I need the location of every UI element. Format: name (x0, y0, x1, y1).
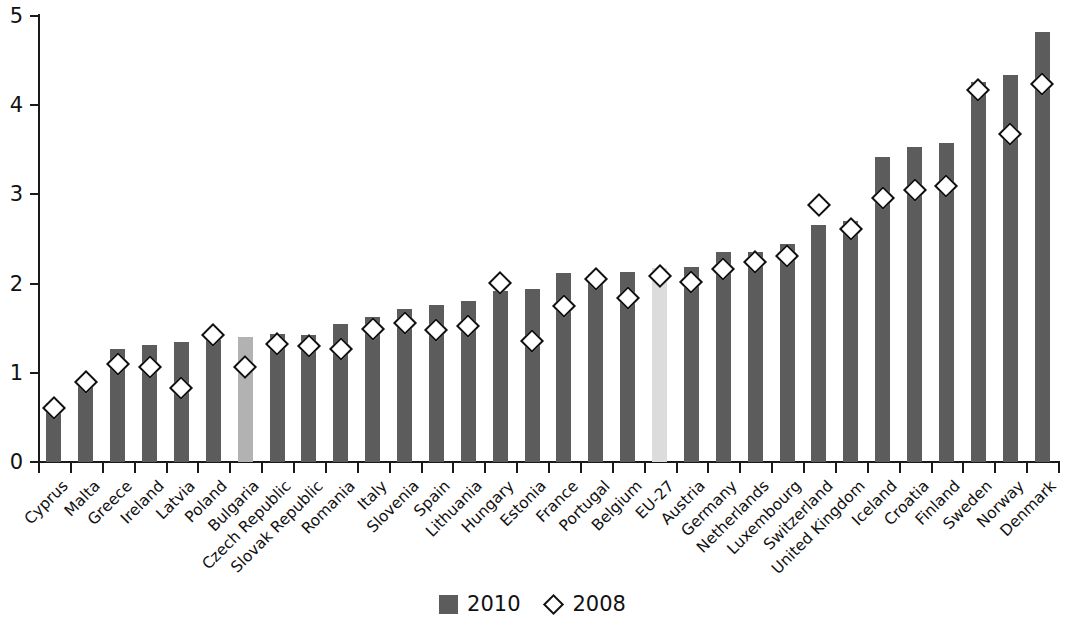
x-axis-tick (102, 463, 104, 473)
y-axis-tick: 1 (30, 372, 38, 374)
x-axis-tick (612, 463, 614, 473)
y-axis-tick: 5 (30, 15, 38, 17)
plot-area: 012345 (38, 16, 1058, 462)
bar-switzerland (811, 225, 826, 462)
x-axis-tick (707, 463, 709, 473)
x-axis-tick (644, 463, 646, 473)
bar-latvia (174, 342, 189, 462)
x-axis-tick (962, 463, 964, 473)
x-axis-tick (835, 463, 837, 473)
y-axis-tick-label: 4 (10, 93, 23, 117)
x-axis-tick (229, 463, 231, 473)
x-axis-tick (452, 463, 454, 473)
bar-poland (206, 340, 221, 462)
x-axis-tick (739, 463, 741, 473)
legend-label-2010: 2010 (467, 592, 520, 616)
x-axis-tick (70, 463, 72, 473)
bar-netherlands (748, 252, 763, 463)
x-axis-tick (516, 463, 518, 473)
x-axis-tick (994, 463, 996, 473)
x-axis-tick (197, 463, 199, 473)
chart-container: 012345 CyprusMaltaGreeceIrelandLatviaPol… (0, 0, 1065, 621)
x-axis-tick (1026, 463, 1028, 473)
diamond-swatch-icon (542, 593, 563, 614)
legend-label-2008: 2008 (573, 592, 626, 616)
x-axis-tick (803, 463, 805, 473)
x-axis-tick (389, 463, 391, 473)
bar-swatch-icon (439, 595, 458, 614)
x-axis-tick (931, 463, 933, 473)
x-axis-tick (676, 463, 678, 473)
x-axis-tick (421, 463, 423, 473)
y-axis-tick: 3 (30, 193, 38, 195)
legend-item-2010: 2010 (439, 592, 520, 616)
bar-malta (78, 384, 93, 462)
y-axis-tick-label: 5 (10, 4, 23, 28)
x-axis-tick (261, 463, 263, 473)
bar-united-kingdom (843, 221, 858, 462)
x-axis-tick (899, 463, 901, 473)
chart-legend: 2010 2008 (0, 592, 1065, 616)
y-axis-tick-label: 0 (10, 450, 23, 474)
x-axis-tick (1058, 463, 1060, 473)
bar-denmark (1035, 32, 1050, 462)
x-axis-tick (357, 463, 359, 473)
y-axis-tick-label: 1 (10, 361, 23, 385)
bar-austria (684, 267, 699, 462)
x-axis-tick (293, 463, 295, 473)
x-axis-tick (771, 463, 773, 473)
x-axis-tick (484, 463, 486, 473)
x-axis-tick (580, 463, 582, 473)
bar-hungary (493, 291, 508, 462)
bar-sweden (971, 82, 986, 462)
x-axis-tick (134, 463, 136, 473)
y-axis-tick: 0 (30, 461, 38, 463)
y-axis-tick-label: 2 (10, 272, 23, 296)
bar-germany (716, 252, 731, 462)
legend-item-2008: 2008 (543, 592, 626, 616)
bar-portugal (588, 274, 603, 462)
x-axis-tick (548, 463, 550, 473)
bar-eu-27 (652, 268, 667, 462)
y-axis-tick: 2 (30, 283, 38, 285)
y-axis-tick: 4 (30, 104, 38, 106)
bar-luxembourg (780, 244, 795, 462)
x-axis-tick (867, 463, 869, 473)
bar-estonia (525, 289, 540, 462)
x-axis-tick (166, 463, 168, 473)
x-axis-tick (38, 463, 40, 473)
diamond-marker-switzerland (807, 193, 831, 217)
x-axis-tick (325, 463, 327, 473)
y-axis-tick-label: 3 (10, 182, 23, 206)
